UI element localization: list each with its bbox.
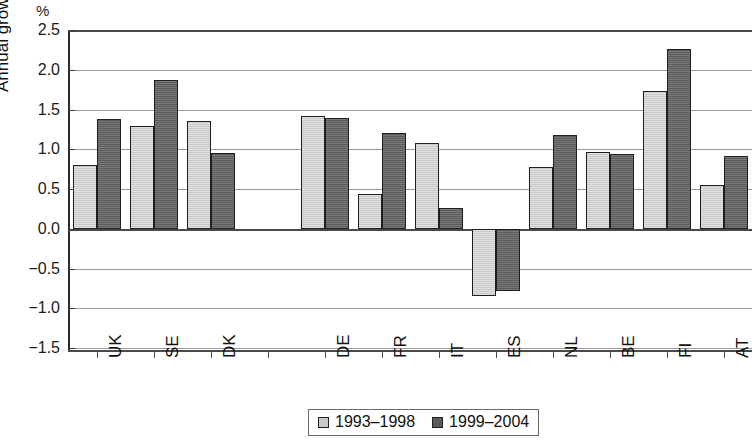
- y-axis-tick-label: 1.5: [38, 101, 60, 119]
- gridline: [68, 269, 752, 270]
- y-axis-tick-mark: [68, 70, 75, 71]
- bar: [130, 126, 154, 229]
- y-axis-tick-mark: [68, 269, 75, 270]
- bar: [187, 121, 211, 228]
- bar: [700, 185, 724, 229]
- x-axis-tick-mark: [211, 350, 212, 358]
- y-axis-tick-label: −0.5: [28, 260, 60, 278]
- x-axis-tick-mark: [553, 350, 554, 358]
- x-axis-category-label: ES: [505, 335, 525, 358]
- y-axis-tick-label: 2.0: [38, 61, 60, 79]
- legend-label: 1999–2004: [449, 413, 529, 431]
- y-axis-unit-label: %: [36, 2, 49, 19]
- x-axis-tick-mark: [724, 350, 725, 358]
- x-axis-tick-mark: [610, 350, 611, 358]
- gridline: [68, 308, 752, 309]
- x-axis-category-label: FR: [391, 335, 411, 358]
- legend-item-series-1: 1993–1998: [318, 413, 415, 431]
- x-axis-category-label: BE: [619, 335, 639, 358]
- bar: [610, 154, 634, 229]
- bar: [325, 118, 349, 229]
- zero-line: [68, 229, 752, 231]
- x-axis-tick-mark: [325, 350, 326, 358]
- chart-legend: 1993–1998 1999–2004: [308, 409, 539, 436]
- y-axis-tick-mark: [68, 149, 75, 150]
- x-axis-tick-mark: [97, 350, 98, 358]
- x-axis-category-label: UK: [106, 334, 126, 358]
- y-axis-tick-mark: [68, 110, 75, 111]
- x-axis-category-label: IT: [448, 343, 468, 358]
- legend-label: 1993–1998: [335, 413, 415, 431]
- x-axis-category-label: SE: [163, 335, 183, 358]
- x-axis-tick-mark: [439, 350, 440, 358]
- bar: [73, 165, 97, 229]
- y-axis-tick-label: 2.5: [38, 21, 60, 39]
- x-axis-category-label: NL: [562, 336, 582, 358]
- x-axis-tick-mark: [496, 350, 497, 358]
- x-axis-category-label: DE: [334, 334, 354, 358]
- y-axis-tick-mark: [68, 308, 75, 309]
- y-axis-tick-label: −1.0: [28, 299, 60, 317]
- gridline: [68, 30, 752, 32]
- bar: [724, 156, 748, 228]
- legend-item-series-2: 1999–2004: [432, 413, 529, 431]
- x-axis-tick-mark: [154, 350, 155, 358]
- y-axis-ticks: 2.52.01.51.00.50.0−0.5−1.0−1.5: [0, 30, 68, 348]
- bar: [529, 167, 553, 229]
- bar: [643, 91, 667, 229]
- bar: [667, 49, 691, 229]
- bar: [211, 153, 235, 229]
- x-axis-category-label: AT: [733, 338, 753, 358]
- bar-chart: % Annual growth 2.52.01.51.00.50.0−0.5−1…: [0, 0, 756, 441]
- y-axis-tick-label: −1.5: [28, 339, 60, 357]
- legend-swatch-icon: [318, 417, 329, 428]
- bar: [415, 143, 439, 229]
- bar: [553, 135, 577, 229]
- bar: [154, 80, 178, 229]
- y-axis-tick-mark: [68, 229, 75, 230]
- bar: [382, 133, 406, 228]
- plot-area: [68, 30, 752, 348]
- x-axis-tick-mark: [268, 350, 269, 358]
- x-axis-tick-mark: [667, 350, 668, 358]
- legend-swatch-icon: [432, 417, 443, 428]
- y-axis-tick-mark: [68, 348, 75, 349]
- x-axis-tick-mark: [382, 350, 383, 358]
- bar: [439, 208, 463, 229]
- bar: [97, 119, 121, 229]
- y-axis-tick-label: 0.5: [38, 180, 60, 198]
- bar: [586, 152, 610, 229]
- x-axis-category-label: FI: [676, 343, 696, 358]
- bar: [301, 116, 325, 229]
- y-axis-tick-mark: [68, 30, 75, 31]
- bar: [496, 229, 520, 291]
- y-axis-tick-label: 0.0: [38, 220, 60, 238]
- bar: [358, 194, 382, 229]
- gridline: [68, 70, 752, 71]
- bar: [472, 229, 496, 296]
- y-axis-tick-label: 1.0: [38, 140, 60, 158]
- x-axis-category-label: DK: [220, 334, 240, 358]
